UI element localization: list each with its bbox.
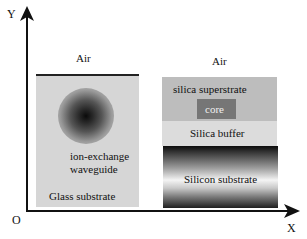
- y-axis-arrow-icon: [19, 6, 35, 22]
- waveguide-mode-profile: [58, 88, 114, 144]
- y-axis: [26, 14, 28, 212]
- glass-substrate-label: Glass substrate: [49, 190, 115, 202]
- glass-surface-line: [36, 74, 139, 76]
- superstrate-label: silica superstrate: [173, 83, 247, 95]
- y-axis-label: Y: [7, 8, 16, 20]
- waveguide-label-line2: waveguide: [70, 163, 118, 175]
- origin-label: O: [12, 214, 21, 226]
- x-axis-label: X: [287, 222, 296, 234]
- buffer-label: Silica buffer: [190, 127, 244, 139]
- x-axis: [26, 210, 292, 212]
- core-label: core: [205, 103, 224, 115]
- silicon-substrate-label: Silicon substrate: [184, 173, 257, 185]
- waveguide-label-line1: ion-exchange: [70, 150, 129, 162]
- x-axis-arrow-icon: [284, 203, 300, 219]
- right-air-label: Air: [212, 55, 227, 67]
- left-air-label: Air: [76, 52, 91, 64]
